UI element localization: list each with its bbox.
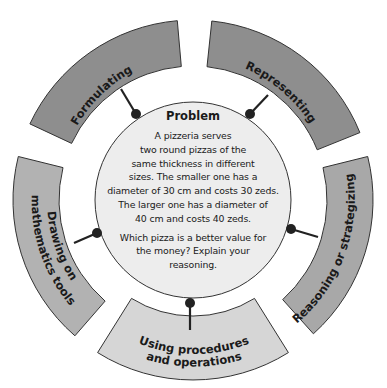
segment-reasoning: Reasoning or strategizing bbox=[283, 157, 373, 334]
problem-line: A pizzeria serves bbox=[103, 129, 283, 143]
segment-using-procedures: Using procedures and operations bbox=[98, 298, 289, 380]
segment-reasoning-shape bbox=[283, 157, 373, 334]
problem-line: 40 cm and costs 40 zeds. bbox=[103, 212, 283, 226]
segment-drawing-tools: Drawing on mathematics tools bbox=[13, 157, 105, 336]
problem-line: the money? Explain your bbox=[103, 244, 283, 258]
problem-line: same thickness in different bbox=[103, 157, 283, 171]
problem-line: The larger one has a diameter of bbox=[103, 198, 283, 212]
dot-reasoning bbox=[286, 224, 296, 234]
problem-line: Which pizza is a better value for bbox=[103, 231, 283, 245]
dot-using-procedures bbox=[185, 298, 195, 308]
problem-line: diameter of 30 cm and costs 30 zeds. bbox=[103, 184, 283, 198]
dot-drawing-tools bbox=[92, 228, 102, 238]
problem-text-block: Problem A pizzeria serves two round pizz… bbox=[103, 108, 283, 288]
problem-title: Problem bbox=[103, 109, 283, 123]
problem-line: two round pizzas of the bbox=[103, 143, 283, 157]
problem-line: sizes. The smaller one has a bbox=[103, 170, 283, 184]
problem-line: reasoning. bbox=[103, 258, 283, 272]
